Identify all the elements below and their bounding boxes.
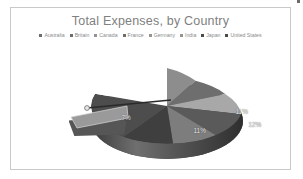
legend-swatch-icon — [180, 34, 183, 37]
legend-label: Australia — [44, 33, 64, 38]
slice-label-canada: 11% — [236, 109, 248, 115]
legend-label: India — [185, 33, 196, 38]
legend-item-germany[interactable]: Germany — [149, 33, 175, 38]
legend-item-india[interactable]: India — [180, 33, 196, 38]
legend-label: Canada — [99, 33, 117, 38]
legend-item-britain[interactable]: Britain — [70, 33, 90, 38]
legend-swatch-icon — [94, 34, 97, 37]
legend-swatch-icon — [201, 34, 204, 37]
legend-label: Germany — [154, 33, 175, 38]
slice-label-france: 12% — [249, 122, 262, 128]
cropped-top-edge — [0, 0, 303, 6]
slice-label-australia: 7% — [122, 115, 131, 121]
legend-item-japan[interactable]: Japan — [201, 33, 220, 38]
legend-label: France — [128, 33, 144, 38]
chart-legend: Australia Britain Canada France Germany … — [11, 33, 290, 38]
pie-3d-stage: 7% 11% 11% 12% — [53, 60, 249, 164]
legend-swatch-icon — [70, 34, 73, 37]
legend-swatch-icon — [149, 34, 152, 37]
legend-label: Japan — [206, 33, 220, 38]
legend-swatch-icon — [225, 34, 228, 37]
exploded-slice-australia[interactable] — [67, 104, 129, 138]
legend-swatch-icon — [39, 34, 42, 37]
chart-title: Total Expenses, by Country — [11, 14, 290, 28]
legend-swatch-icon — [123, 34, 126, 37]
cropped-marker-icon — [297, 0, 300, 3]
legend-item-france[interactable]: France — [123, 33, 144, 38]
legend-item-canada[interactable]: Canada — [94, 33, 117, 38]
legend-item-australia[interactable]: Australia — [39, 33, 64, 38]
exploded-slice-top — [67, 104, 129, 130]
slice-label-britain: 11% — [194, 128, 206, 134]
legend-label: Britain — [75, 33, 90, 38]
pie-chart-plot-area[interactable]: 7% 11% 11% 12% — [11, 60, 290, 168]
chart-container[interactable]: Total Expenses, by Country Australia Bri… — [10, 7, 291, 170]
legend-item-united-states[interactable]: United States — [225, 33, 261, 38]
legend-label: United States — [230, 33, 261, 38]
